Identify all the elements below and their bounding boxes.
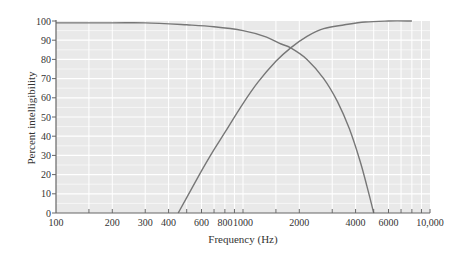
intelligibility-chart: 0102030405060708090100 10020030040060080…	[0, 0, 465, 260]
x-tick-label: 1000	[233, 217, 253, 228]
x-tick-label: 100	[49, 217, 64, 228]
y-axis-title: Percent intelligibility	[25, 71, 37, 165]
x-tick-label: 800	[217, 217, 232, 228]
x-axis-title: Frequency (Hz)	[208, 233, 278, 246]
y-tick-label: 70	[41, 73, 51, 84]
x-tick-label: 10,000	[416, 217, 444, 228]
y-tick-label: 60	[41, 92, 51, 103]
grid-lines	[56, 21, 430, 213]
x-tick-label: 600	[194, 217, 209, 228]
y-tick-label: 100	[36, 16, 51, 27]
x-tick-label: 2000	[289, 217, 309, 228]
y-axis-ticks: 0102030405060708090100	[36, 16, 56, 219]
y-tick-label: 10	[41, 188, 51, 199]
x-tick-label: 400	[161, 217, 176, 228]
x-tick-label: 6000	[379, 217, 399, 228]
x-tick-label: 300	[138, 217, 153, 228]
y-tick-label: 20	[41, 169, 51, 180]
x-tick-label: 200	[105, 217, 120, 228]
x-tick-label: 4000	[346, 217, 366, 228]
y-tick-label: 80	[41, 54, 51, 65]
y-tick-label: 50	[41, 112, 51, 123]
y-tick-label: 30	[41, 150, 51, 161]
y-tick-label: 40	[41, 131, 51, 142]
y-tick-label: 90	[41, 35, 51, 46]
